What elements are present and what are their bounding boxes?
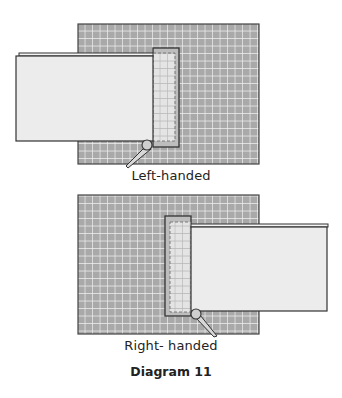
panel-label-right-handed: Right- handed [0,338,342,353]
figure-caption: Diagram 11 [0,364,342,379]
fabric-strip [16,56,153,141]
fabric-strip [191,227,327,311]
left-handed-panel [16,24,259,168]
right-handed-panel [78,195,328,337]
panel-label-left-handed: Left-handed [0,168,342,183]
ruler-window [153,53,175,141]
ruler-window [170,222,191,312]
